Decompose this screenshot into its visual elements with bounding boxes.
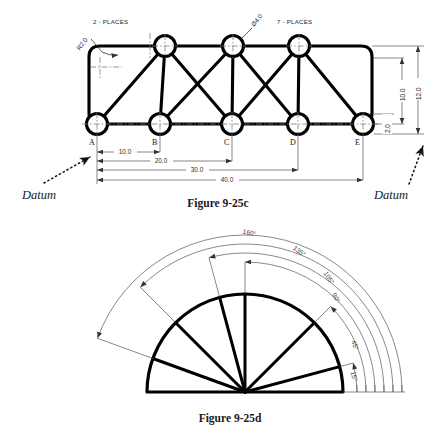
datum-label-right: Datum <box>373 188 408 202</box>
arc-45 <box>331 306 366 392</box>
radius-value-label: R2.0 <box>75 36 89 51</box>
figure-9-25d: 160° 135° 105° 90° 45° 15° Figure 9-25d <box>97 228 405 425</box>
node-label-b: B <box>152 138 157 147</box>
technical-drawing-page: R2.0 2 - PLACES Ø4.0 7 - PLACES A B C D … <box>0 0 437 432</box>
angle-label-90: 90° <box>331 292 342 304</box>
dimension-20: 20.0 <box>155 157 168 164</box>
datum-label-left: Datum <box>21 188 56 202</box>
protractor-radial-lines <box>153 294 340 392</box>
angle-label-160: 160° <box>242 228 257 238</box>
node-label-e: E <box>355 138 360 147</box>
figure-d-caption: Figure 9-25d <box>199 412 262 425</box>
angular-dimension-labels: 160° 135° 105° 90° 45° 15° <box>242 228 360 383</box>
dimension-40: 40.0 <box>221 176 234 183</box>
protractor-radial-extensions <box>97 258 353 367</box>
datum-leader-left <box>44 157 90 183</box>
protractor-baseline-extensions <box>343 385 405 392</box>
angular-dimension-arcs <box>97 235 402 392</box>
dimension-10-vertical: 10.0 <box>399 88 406 101</box>
angle-label-135: 135° <box>292 244 307 258</box>
radius-count-note: 2 - PLACES <box>93 18 128 25</box>
hole-count-note: 7 - PLACES <box>277 18 312 25</box>
dimension-10: 10.0 <box>119 148 132 155</box>
hole-diameter-label: Ø4.0 <box>249 12 264 27</box>
figure-9-25c: R2.0 2 - PLACES Ø4.0 7 - PLACES A B C D … <box>21 12 424 210</box>
dimension-2-vertical: 2.0 <box>384 124 391 133</box>
drawing-canvas: R2.0 2 - PLACES Ø4.0 7 - PLACES A B C D … <box>0 0 437 432</box>
arc-160 <box>97 235 402 392</box>
corner-radius-center-mark <box>90 57 122 78</box>
angle-label-15: 15° <box>350 370 360 382</box>
node-label-a: A <box>89 138 95 147</box>
arc-105 <box>209 253 384 392</box>
datum-leader-right <box>409 146 423 184</box>
dimension-12-vertical: 12.0 <box>415 87 422 100</box>
dimension-30: 30.0 <box>191 166 204 173</box>
angle-label-45: 45° <box>350 339 360 351</box>
hole-leader <box>241 28 252 39</box>
node-label-d: D <box>290 138 296 147</box>
radial-160 <box>153 358 245 392</box>
figure-c-caption: Figure 9-25c <box>187 197 248 210</box>
node-label-c: C <box>224 138 229 147</box>
